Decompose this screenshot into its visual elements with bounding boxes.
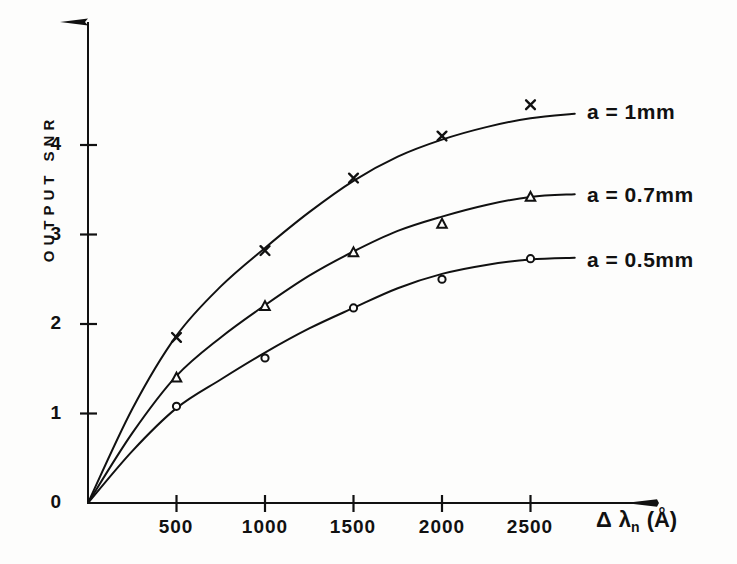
chart-figure: 0 1 2 3 4 500 1000 1500 2000 2500 OUTPUT… [0,0,737,564]
data-point [172,373,182,382]
data-point [261,354,268,361]
data-point [173,403,180,410]
data-point [526,192,536,201]
angstrom-unit: (Å) [647,507,678,532]
curve-1 [88,194,575,503]
y-axis-title: OUTPUT SNR [40,89,57,289]
data-point [437,219,447,228]
x-axis-title: Δλn(Å) [596,507,677,535]
y-tick-label-0: 0 [22,491,62,513]
x-tick-label-1500: 1500 [308,516,398,538]
series-label-a-1mm: a = 1mm [587,100,675,124]
curve-0 [88,114,575,503]
data-point [350,304,357,311]
lambda-subscript: n [631,519,640,535]
series-markers [172,100,536,410]
lambda-symbol: λ [619,507,631,532]
x-tick-label-2000: 2000 [397,516,487,538]
delta-symbol: Δ [596,507,612,532]
data-point [438,276,445,283]
data-point [526,100,535,109]
data-point [527,255,534,262]
series-label-a-05mm: a = 0.5mm [587,248,694,272]
series-label-a-07mm: a = 0.7mm [587,183,694,207]
x-tick-label-500: 500 [131,516,221,538]
chart-plot-area [0,0,737,564]
series-curves [88,114,575,503]
x-tick-label-2500: 2500 [485,516,575,538]
y-tick-label-2: 2 [22,312,62,334]
curve-2 [88,258,575,503]
x-tick-label-1000: 1000 [220,516,310,538]
y-tick-label-1: 1 [22,402,62,424]
